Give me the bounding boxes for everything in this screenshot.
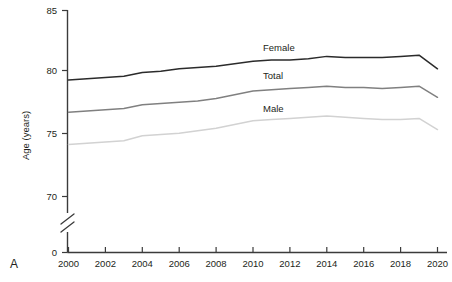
x-tick-label-2014: 2014 <box>316 258 337 269</box>
series-label-total: Total <box>263 70 283 81</box>
x-tick-label-2002: 2002 <box>95 258 116 269</box>
y-tick-label-80: 80 <box>46 65 57 76</box>
y-tick-label-85: 85 <box>46 5 57 16</box>
x-tick-label-2008: 2008 <box>206 258 227 269</box>
y-axis-title: Age (years) <box>20 111 31 160</box>
x-tick-label-2000: 2000 <box>58 258 79 269</box>
y-tick-label-70: 70 <box>46 191 57 202</box>
data-line-male <box>69 116 438 145</box>
panel-label: A <box>10 257 18 271</box>
y-tick-marks <box>62 11 68 253</box>
series-label-female: Female <box>263 42 295 53</box>
y-tick-label-0: 0 <box>52 247 57 258</box>
figure-panel-a: 85 80 75 70 0 Age (years) 2000 2002 2004… <box>0 0 452 282</box>
x-tick-label-2020: 2020 <box>427 258 448 269</box>
x-tick-label-2012: 2012 <box>279 258 300 269</box>
x-tick-label-2004: 2004 <box>132 258 153 269</box>
data-line-total <box>69 86 438 112</box>
x-tick-label-2018: 2018 <box>390 258 411 269</box>
x-tick-marks <box>69 247 438 253</box>
axis-break-icon <box>61 214 74 232</box>
y-tick-label-75: 75 <box>46 128 57 139</box>
series-label-male: Male <box>263 103 284 114</box>
life-expectancy-line-chart: 85 80 75 70 0 Age (years) 2000 2002 2004… <box>0 0 452 282</box>
data-line-female <box>69 55 438 80</box>
x-tick-label-2006: 2006 <box>169 258 190 269</box>
x-tick-label-2016: 2016 <box>353 258 374 269</box>
x-tick-label-2010: 2010 <box>242 258 263 269</box>
